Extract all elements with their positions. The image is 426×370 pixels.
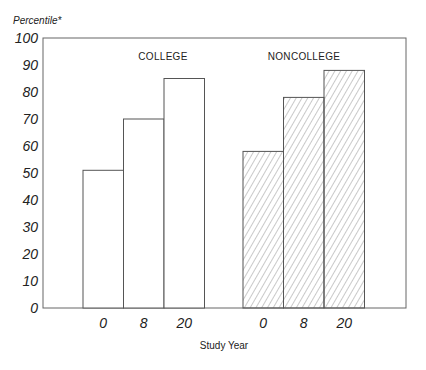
bar-noncollege-year-0 bbox=[243, 151, 284, 308]
bar-noncollege-year-8 bbox=[284, 97, 325, 308]
y-tick-label: 50 bbox=[22, 165, 38, 181]
group-label-college: COLLEGE bbox=[138, 51, 187, 62]
x-tick-label: 8 bbox=[300, 315, 308, 331]
bars bbox=[83, 70, 365, 308]
x-tick-label: 8 bbox=[140, 315, 148, 331]
x-tick-label: 20 bbox=[335, 315, 352, 331]
x-axis-ticks: 08200820 bbox=[99, 315, 352, 331]
x-tick-label: 0 bbox=[99, 315, 107, 331]
y-tick-label: 20 bbox=[21, 246, 38, 262]
y-tick-label: 70 bbox=[22, 111, 38, 127]
y-tick-label: 30 bbox=[22, 219, 38, 235]
chart: Percentile* 0102030405060708090100 COLLE… bbox=[0, 0, 426, 370]
y-axis-label: Percentile* bbox=[13, 15, 62, 26]
group-label-noncollege: NONCOLLEGE bbox=[268, 51, 340, 62]
y-tick-label: 100 bbox=[15, 30, 39, 46]
y-tick-label: 60 bbox=[22, 138, 38, 154]
y-tick-label: 0 bbox=[30, 300, 38, 316]
bar-college-year-0 bbox=[83, 170, 124, 308]
y-tick-label: 10 bbox=[22, 273, 38, 289]
y-axis-ticks: 0102030405060708090100 bbox=[15, 30, 39, 316]
y-tick-label: 40 bbox=[22, 192, 38, 208]
bar-noncollege-year-20 bbox=[324, 70, 365, 308]
y-tick-label: 80 bbox=[22, 84, 38, 100]
bar-college-year-20 bbox=[164, 79, 205, 309]
y-tick-label: 90 bbox=[22, 57, 38, 73]
x-tick-label: 20 bbox=[175, 315, 192, 331]
bar-college-year-8 bbox=[124, 119, 165, 308]
x-tick-label: 0 bbox=[259, 315, 267, 331]
x-axis-label: Study Year bbox=[200, 340, 249, 351]
